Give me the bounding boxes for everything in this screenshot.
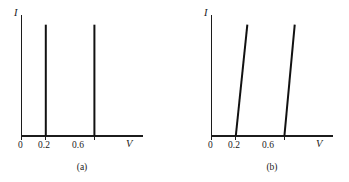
panel-a: I V 0 0.2 0.6 (a): [0, 0, 174, 182]
panel-b-series-ramp-from-0.6: [284, 25, 294, 136]
panel-a-tick-label-0-6: 0.6: [72, 141, 84, 151]
panel-a-caption: (a): [62, 162, 102, 172]
panel-a-x-axis-label: V: [126, 139, 132, 150]
panel-b-x-axis-label: V: [316, 139, 322, 150]
panel-b-series-ramp-from-0.2: [236, 25, 248, 136]
panel-b-plot: [175, 0, 349, 182]
panel-a-y-axis-label: I: [14, 8, 18, 19]
panel-a-plot: [0, 0, 174, 182]
panel-b: I V 0 0.2 0.6 (b): [175, 0, 349, 182]
figure-container: I V 0 0.2 0.6 (a) I V 0 0.2 0.6 (b): [0, 0, 349, 182]
panel-a-tick-label-0: 0: [18, 141, 23, 151]
panel-b-tick-label-0-6: 0.6: [262, 141, 274, 151]
panel-b-tick-label-0-2: 0.2: [228, 141, 240, 151]
panel-a-tick-label-0-2: 0.2: [38, 141, 50, 151]
panel-b-caption: (b): [252, 162, 292, 172]
panel-b-y-axis-label: I: [204, 8, 208, 19]
panel-b-tick-label-0: 0: [208, 141, 213, 151]
